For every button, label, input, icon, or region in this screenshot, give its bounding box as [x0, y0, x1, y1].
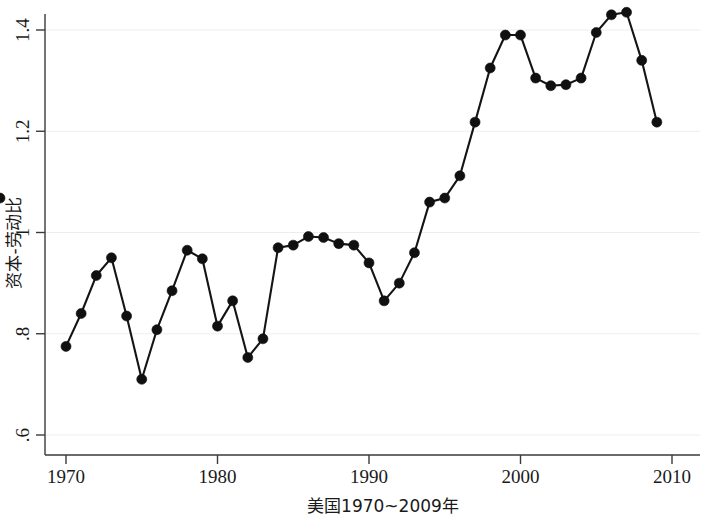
- data-point-marker: [213, 321, 223, 331]
- data-point-marker: [122, 311, 132, 321]
- data-point-marker: [637, 55, 647, 65]
- x-axis-title: 美国1970~2009年: [307, 496, 459, 516]
- data-point-marker: [349, 240, 359, 250]
- data-point-marker: [531, 73, 541, 83]
- series-line-path: [66, 12, 657, 379]
- data-point-marker: [137, 374, 147, 384]
- x-tick-label: 2000: [502, 466, 540, 487]
- data-point-marker: [273, 243, 283, 253]
- data-point-marker: [561, 80, 571, 90]
- x-tick-label: 1980: [199, 466, 237, 487]
- data-point-marker: [152, 325, 162, 335]
- y-axis-title: 资本-劳动比: [4, 197, 24, 288]
- data-point-marker: [91, 271, 101, 281]
- x-axis-ticks-group: 19701980199020002010: [47, 455, 691, 487]
- data-point-marker: [591, 28, 601, 38]
- x-tick-label: 2010: [653, 466, 691, 487]
- data-point-marker: [485, 63, 495, 73]
- data-point-marker: [364, 258, 374, 268]
- data-point-marker: [228, 296, 238, 306]
- data-point-marker: [197, 254, 207, 264]
- data-point-marker: [334, 239, 344, 249]
- line-chart: .6.811.21.4 19701980199020002010 资本-劳动比 …: [0, 0, 718, 523]
- data-point-marker: [243, 353, 253, 363]
- data-point-marker: [470, 117, 480, 127]
- data-point-marker: [425, 197, 435, 207]
- y-tick-label: .8: [12, 327, 33, 341]
- data-point-marker: [61, 341, 71, 351]
- axis-lines-group: [45, 14, 700, 455]
- chart-container: .6.811.21.4 19701980199020002010 资本-劳动比 …: [0, 0, 718, 523]
- data-point-marker: [288, 240, 298, 250]
- y-tick-label: 1.4: [12, 18, 33, 42]
- data-point-marker: [379, 296, 389, 306]
- data-point-marker: [258, 334, 268, 344]
- data-point-marker: [606, 10, 616, 20]
- data-point-marker: [182, 245, 192, 255]
- data-point-marker: [106, 253, 116, 263]
- data-point-marker: [394, 278, 404, 288]
- data-point-marker: [409, 248, 419, 258]
- y-tick-label: 1.2: [12, 119, 33, 143]
- x-tick-label: 1970: [47, 466, 85, 487]
- data-point-marker: [622, 7, 632, 17]
- data-point-marker: [319, 233, 329, 243]
- data-point-marker: [546, 81, 556, 91]
- x-tick-label: 1990: [350, 466, 388, 487]
- y-tick-label: .6: [12, 428, 33, 442]
- data-point-marker: [440, 193, 450, 203]
- data-point-marker: [652, 117, 662, 127]
- data-point-markers: [0, 7, 662, 384]
- data-point-marker: [576, 73, 586, 83]
- data-series-group: [0, 7, 662, 384]
- data-point-marker: [303, 232, 313, 242]
- data-point-marker: [167, 286, 177, 296]
- data-point-marker: [76, 309, 86, 319]
- data-point-marker: [516, 30, 526, 40]
- data-point-marker: [455, 171, 465, 181]
- data-point-marker: [500, 30, 510, 40]
